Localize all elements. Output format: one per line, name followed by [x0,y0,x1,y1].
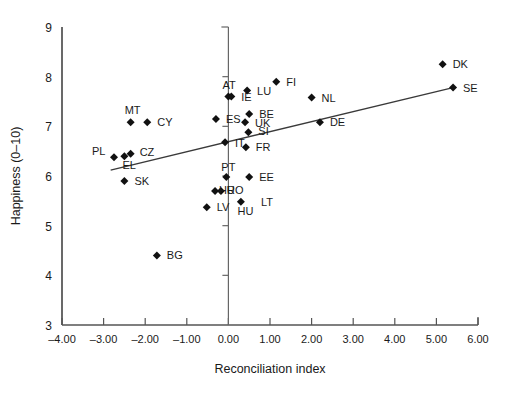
data-point-label: LT [261,196,273,208]
x-tick-label: 1.00 [259,333,280,345]
x-tick-label: 6.00 [467,333,488,345]
x-tick-label: –4.00 [48,333,76,345]
data-point-marker [308,94,316,102]
data-point-label: EL [122,159,135,171]
data-points-group [110,60,457,259]
data-point-marker [120,177,128,185]
x-axis-title: Reconciliation index [214,362,326,376]
data-point-marker [272,78,280,86]
data-point-label: HU [238,205,254,217]
x-tick-label: 3.00 [342,333,363,345]
data-point-marker [127,118,135,126]
data-point-label: HU [219,184,235,196]
data-point-marker [222,173,230,181]
y-tick-label: 7 [45,120,52,134]
data-point-label: IE [241,91,251,103]
x-tick-label: –1.00 [173,333,201,345]
plot-canvas: –4.00–3.00–2.00–1.000.001.002.003.004.00… [0,0,516,401]
data-point-label: FI [286,76,296,88]
data-point-label: FR [256,141,271,153]
data-point-marker [212,115,220,123]
trend-line [111,88,453,170]
data-point-label: AT [222,79,236,91]
data-point-label: CY [157,116,173,128]
x-tick-label: –3.00 [90,333,118,345]
x-axis-tick-labels: –4.00–3.00–2.00–1.000.001.002.003.004.00… [48,333,488,345]
x-tick-label: –2.00 [131,333,159,345]
y-tick-label: 5 [45,220,52,234]
data-point-label: SK [134,175,149,187]
y-tick-label: 4 [45,269,52,283]
data-point-label: DE [330,116,345,128]
data-point-label: BG [167,249,183,261]
data-point-label: CZ [140,146,155,158]
data-point-marker [143,118,151,126]
data-point-label: PT [221,161,235,173]
data-point-marker [203,203,211,211]
y-axis-title: Happiness (0–10) [9,127,23,226]
y-tick-label: 6 [45,170,52,184]
data-point-label: MT [125,104,141,116]
data-point-label: SE [463,82,478,94]
x-tick-label: 2.00 [301,333,322,345]
data-point-marker [241,118,249,126]
data-point-label: IT [235,137,245,149]
data-point-label: LV [217,201,230,213]
x-tick-label: 4.00 [384,333,405,345]
x-tick-label: 5.00 [426,333,447,345]
data-point-label: LU [257,85,271,97]
data-point-marker [449,84,457,92]
data-point-marker [439,60,447,68]
data-point-marker [153,251,161,259]
y-axis-tick-labels: 3456789 [45,21,52,333]
data-point-label: EE [259,171,274,183]
data-point-label: PL [92,145,105,157]
scatter-chart-figure: –4.00–3.00–2.00–1.000.001.002.003.004.00… [0,0,516,401]
data-point-label: NL [322,92,336,104]
data-point-marker [244,128,252,136]
data-point-labels: DKSEFINLDELUATIEBEUKESSIITFRMTCYPLELCZSK… [92,58,478,261]
x-tick-label: 0.00 [218,333,239,345]
data-point-label: SI [258,125,268,137]
data-point-marker [110,153,118,161]
y-tick-label: 3 [45,319,52,333]
y-tick-label: 9 [45,21,52,35]
x-axis-ticks [62,318,478,325]
data-point-label: ES [226,113,241,125]
y-tick-label: 8 [45,71,52,85]
data-point-marker [245,173,253,181]
data-point-label: DK [453,58,469,70]
data-point-marker [245,110,253,118]
